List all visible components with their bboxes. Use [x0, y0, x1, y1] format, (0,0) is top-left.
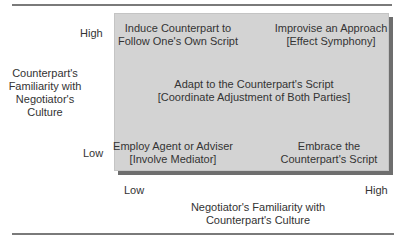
- cell-line: Induce Counterpart to: [118, 22, 238, 35]
- y-axis-title-line: Culture: [9, 106, 82, 119]
- cell-line: Improvise an Approach: [275, 22, 388, 35]
- y-axis-title-line: Familiarity with: [9, 80, 82, 93]
- y-axis-title-line: Negotiator's: [9, 93, 82, 106]
- cell-line: Counterpart's Script: [281, 153, 378, 166]
- cell-top-right: Improvise an Approach [Effect Symphony]: [275, 22, 388, 48]
- cell-line: [Effect Symphony]: [275, 35, 388, 48]
- cell-line: [Involve Mediator]: [113, 153, 233, 166]
- cell-bottom-left: Employ Agent or Adviser [Involve Mediato…: [113, 140, 233, 166]
- cell-line: Follow One's Own Script: [118, 35, 238, 48]
- x-axis-title-line: Negotiator's Familiarity with: [191, 201, 325, 214]
- y-axis-high-label: High: [80, 27, 103, 40]
- cell-line: Adapt to the Counterpart's Script: [158, 78, 351, 91]
- y-axis-title-line: Counterpart's: [9, 67, 82, 80]
- cell-top-left: Induce Counterpart to Follow One's Own S…: [118, 22, 238, 48]
- cell-line: [Coordinate Adjustment of Both Parties]: [158, 91, 351, 104]
- y-axis-low-label: Low: [83, 147, 103, 160]
- cell-center: Adapt to the Counterpart's Script [Coord…: [158, 78, 351, 104]
- cell-line: Employ Agent or Adviser: [113, 140, 233, 153]
- bottom-rule: [12, 233, 394, 235]
- y-axis-title: Counterpart's Familiarity with Negotiato…: [9, 67, 82, 119]
- cell-line: Embrace the: [281, 140, 378, 153]
- top-rule: [12, 4, 392, 6]
- x-axis-high-label: High: [365, 184, 388, 197]
- x-axis-title: Negotiator's Familiarity with Counterpar…: [191, 201, 325, 227]
- cell-bottom-right: Embrace the Counterpart's Script: [281, 140, 378, 166]
- x-axis-low-label: Low: [124, 184, 144, 197]
- x-axis-title-line: Counterpart's Culture: [191, 214, 325, 227]
